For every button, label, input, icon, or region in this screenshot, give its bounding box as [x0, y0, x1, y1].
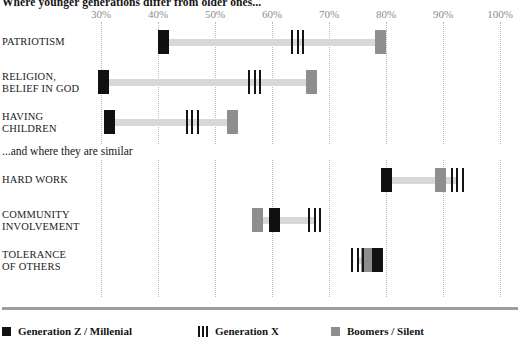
marker-genz — [372, 248, 383, 272]
marker-genz — [98, 70, 109, 94]
row-label: RELIGION, BELIEF IN GOD — [2, 71, 79, 94]
legend-label: Generation Z / Millenial — [18, 325, 132, 337]
chart-subtitle: ...and where they are similar — [2, 145, 133, 157]
marker-genx — [248, 70, 261, 94]
row-range-track — [110, 119, 233, 126]
marker-genx — [351, 248, 364, 272]
legend-label: Generation X — [215, 325, 279, 337]
legend-swatch-genz-icon — [2, 327, 11, 336]
x-axis-tick-60: 60% — [262, 8, 282, 20]
marker-genx — [186, 110, 199, 134]
x-axis-tick-100: 100% — [487, 8, 513, 20]
legend-divider — [2, 307, 518, 310]
marker-genz — [269, 208, 280, 232]
legend-swatch-boomer-icon — [331, 327, 340, 336]
row-label: PATRIOTISM — [2, 36, 65, 48]
x-axis-tick-90: 90% — [433, 8, 453, 20]
legend-item-boomer[interactable]: Boomers / Silent — [331, 325, 424, 337]
marker-genx — [291, 30, 304, 54]
chart-row: RELIGION, BELIEF IN GOD — [0, 62, 520, 102]
row-range-track — [386, 177, 457, 184]
marker-boomer — [375, 30, 386, 54]
legend-item-genx[interactable]: Generation X — [198, 325, 279, 337]
legend-item-genz[interactable]: Generation Z / Millenial — [2, 325, 132, 337]
marker-genz — [104, 110, 115, 134]
generations-values-chart: Where younger generations differ from ol… — [0, 0, 520, 344]
legend-swatch-genx-icon — [198, 326, 208, 337]
marker-boomer — [227, 110, 238, 134]
marker-boomer — [435, 168, 446, 192]
x-axis-labels: 30%40%50%60%70%80%90%100% — [0, 0, 520, 22]
marker-genz — [381, 168, 392, 192]
row-label: TOLERANCE OF OTHERS — [2, 249, 66, 272]
marker-boomer — [252, 208, 263, 232]
marker-boomer — [306, 70, 317, 94]
chart-row: PATRIOTISM — [0, 22, 520, 62]
chart-row: TOLERANCE OF OTHERS — [0, 240, 520, 280]
row-label: HARD WORK — [2, 174, 68, 186]
row-range-track — [258, 217, 315, 224]
chart-row: HAVING CHILDREN — [0, 102, 520, 142]
marker-genx — [451, 168, 464, 192]
x-axis-tick-40: 40% — [148, 8, 168, 20]
legend-label: Boomers / Silent — [347, 325, 424, 337]
x-axis-tick-80: 80% — [376, 8, 396, 20]
x-axis-tick-30: 30% — [91, 8, 111, 20]
chart-legend: Generation Z / MillenialGeneration XBoom… — [0, 325, 520, 344]
x-axis-tick-50: 50% — [205, 8, 225, 20]
marker-genz — [158, 30, 169, 54]
chart-row: COMMUNITY INVOLVEMENT — [0, 200, 520, 240]
marker-genx — [308, 208, 321, 232]
row-label: COMMUNITY INVOLVEMENT — [2, 209, 80, 232]
row-range-track — [104, 79, 312, 86]
x-axis-tick-70: 70% — [319, 8, 339, 20]
row-label: HAVING CHILDREN — [2, 111, 57, 134]
chart-row: HARD WORK — [0, 160, 520, 200]
row-range-track — [164, 39, 381, 46]
